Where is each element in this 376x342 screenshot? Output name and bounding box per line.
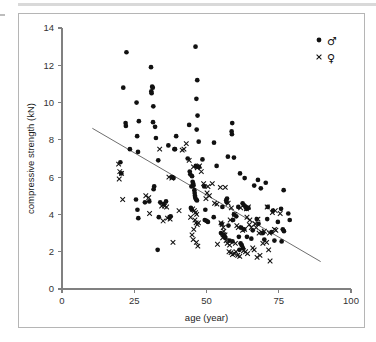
y-tick-label: 14 xyxy=(43,22,54,33)
data-point-female xyxy=(171,240,176,245)
data-point-male xyxy=(281,188,286,193)
data-point-male xyxy=(151,187,156,192)
data-point-female xyxy=(161,219,166,224)
data-point-male xyxy=(265,217,270,222)
figure-frame: 024681012140255075100 age (year)compress… xyxy=(18,13,365,328)
data-point-male xyxy=(134,100,139,105)
data-point-male xyxy=(190,174,195,179)
data-point-female xyxy=(252,248,257,253)
data-point-female xyxy=(247,222,252,227)
data-point-male xyxy=(134,197,139,202)
left-edge-mark xyxy=(0,14,5,16)
data-point-male xyxy=(195,198,200,203)
data-point-male xyxy=(232,155,237,160)
x-tick-label: 50 xyxy=(201,295,212,306)
data-point-female xyxy=(278,211,283,216)
data-point-male xyxy=(193,44,198,49)
data-point-male xyxy=(237,234,242,239)
data-point-male xyxy=(196,139,201,144)
data-point-male xyxy=(211,215,216,220)
legend-group: ♂♀ xyxy=(317,35,337,65)
data-point-male xyxy=(252,183,257,188)
data-point-male xyxy=(174,134,179,139)
data-point-male xyxy=(151,120,156,125)
scatter-plot: 024681012140255075100 age (year)compress… xyxy=(19,14,364,327)
data-point-male xyxy=(166,143,171,148)
data-point-male xyxy=(214,164,219,169)
data-point-male xyxy=(212,140,217,145)
data-point-female xyxy=(210,181,215,186)
y-tick-label: 0 xyxy=(49,283,54,294)
data-point-male xyxy=(195,78,200,83)
y-tick-label: 12 xyxy=(43,60,54,71)
y-tick-label: 8 xyxy=(49,134,54,145)
data-point-male xyxy=(151,104,156,109)
data-point-male xyxy=(202,218,207,223)
data-point-male xyxy=(200,157,205,162)
data-point-male xyxy=(149,91,154,96)
data-point-female xyxy=(218,185,223,190)
data-point-male xyxy=(154,136,159,141)
legend-marker-female xyxy=(317,55,322,60)
data-point-male xyxy=(226,154,231,159)
x-tick-label: 100 xyxy=(343,295,359,306)
data-point-female xyxy=(120,197,125,202)
data-point-male xyxy=(230,132,235,137)
x-tick-label: 75 xyxy=(273,295,284,306)
data-point-female xyxy=(117,177,122,182)
data-point-male xyxy=(194,96,199,101)
y-tick-label: 4 xyxy=(49,209,54,220)
data-point-male xyxy=(153,124,158,129)
data-point-female xyxy=(177,208,182,213)
data-point-female xyxy=(245,251,250,256)
data-point-female xyxy=(204,196,209,201)
series-male-group xyxy=(118,44,292,252)
series-female-group xyxy=(116,141,282,263)
data-point-male xyxy=(195,113,200,118)
data-point-male xyxy=(230,121,235,126)
data-point-male xyxy=(203,207,208,212)
data-point-male xyxy=(143,200,148,205)
data-point-male xyxy=(136,216,141,221)
data-point-female xyxy=(188,215,193,220)
legend-label-male: ♂ xyxy=(327,35,337,48)
data-point-male xyxy=(156,158,161,163)
data-point-male xyxy=(272,238,277,243)
data-point-female xyxy=(264,240,269,245)
data-point-male xyxy=(279,206,284,211)
y-tick-label: 6 xyxy=(49,172,54,183)
data-point-female xyxy=(184,141,189,146)
data-point-female xyxy=(266,248,271,253)
data-point-male xyxy=(245,234,250,239)
x-tick-label: 0 xyxy=(59,295,64,306)
data-point-male xyxy=(279,239,284,244)
axes-group xyxy=(62,28,351,289)
data-point-female xyxy=(215,242,220,247)
data-point-male xyxy=(220,205,225,210)
data-point-female xyxy=(235,223,240,228)
data-point-male xyxy=(249,236,254,241)
data-point-female xyxy=(227,243,232,248)
data-point-female xyxy=(261,241,266,246)
trend-line xyxy=(92,128,320,261)
data-point-male xyxy=(135,134,140,139)
data-point-male xyxy=(187,123,192,128)
data-point-male xyxy=(149,65,154,70)
data-point-female xyxy=(248,218,253,223)
data-point-female xyxy=(191,227,196,232)
data-point-female xyxy=(182,147,187,152)
data-point-male xyxy=(238,171,243,176)
data-point-male xyxy=(121,85,126,90)
data-point-male xyxy=(164,199,169,204)
data-point-male xyxy=(276,220,281,225)
data-point-female xyxy=(268,259,273,264)
data-point-male xyxy=(135,207,140,212)
legend-label-female: ♀ xyxy=(327,52,335,65)
x-tick-label: 25 xyxy=(129,295,140,306)
data-point-male xyxy=(173,147,178,152)
x-axis-title: age (year) xyxy=(185,312,228,323)
data-point-female xyxy=(157,147,162,152)
y-axis-title: compressive strength (kN) xyxy=(25,103,36,214)
data-point-female xyxy=(223,185,228,190)
data-point-male xyxy=(287,218,292,223)
